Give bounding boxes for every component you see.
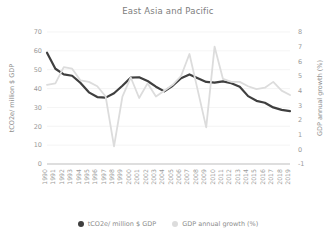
svg-text:1990: 1990 (41, 169, 48, 185)
svg-text:2004: 2004 (158, 169, 165, 185)
svg-text:2007: 2007 (183, 169, 190, 185)
svg-text:2002: 2002 (142, 169, 149, 185)
svg-text:2010: 2010 (209, 169, 216, 185)
svg-text:0: 0 (298, 146, 302, 154)
svg-text:1995: 1995 (83, 169, 90, 185)
svg-text:2: 2 (298, 116, 302, 124)
svg-text:3: 3 (298, 102, 302, 110)
svg-text:2009: 2009 (200, 169, 207, 185)
chart-card: East Asia and Pacific 010203040506070 -1… (0, 0, 336, 237)
svg-text:60: 60 (34, 47, 42, 55)
svg-text:2000: 2000 (125, 169, 132, 185)
x-axis-tick-labels: 1990199119921993199419951996199719981999… (41, 169, 291, 185)
svg-text:-1: -1 (298, 160, 304, 168)
svg-text:6: 6 (298, 58, 302, 66)
svg-text:1997: 1997 (100, 169, 107, 185)
y-axis-tick-labels: 010203040506070 (34, 28, 42, 168)
series-group (47, 47, 290, 147)
svg-text:1999: 1999 (116, 169, 123, 185)
svg-text:2006: 2006 (175, 169, 182, 185)
svg-text:1996: 1996 (91, 169, 98, 185)
legend-label-co2: tCO2e/ million $ GDP (88, 220, 156, 228)
svg-text:2011: 2011 (217, 169, 224, 185)
legend-swatch-gdp (172, 221, 178, 227)
svg-text:2005: 2005 (167, 169, 174, 185)
chart-legend: tCO2e/ million $ GDP GDP annual growth (… (0, 220, 336, 228)
secondary-y-axis-tick-labels: -1012345678 (298, 28, 304, 168)
svg-text:2018: 2018 (276, 169, 283, 185)
svg-text:2003: 2003 (150, 169, 157, 185)
svg-text:2016: 2016 (259, 169, 266, 185)
svg-text:1993: 1993 (66, 169, 73, 185)
svg-text:1998: 1998 (108, 169, 115, 185)
svg-text:50: 50 (34, 66, 42, 74)
svg-text:2014: 2014 (242, 169, 249, 185)
svg-text:7: 7 (298, 43, 302, 51)
svg-text:1994: 1994 (75, 169, 82, 185)
svg-text:2015: 2015 (250, 169, 257, 185)
svg-text:40: 40 (34, 85, 42, 93)
svg-text:1992: 1992 (58, 169, 65, 185)
legend-item-gdp[interactable]: GDP annual growth (%) (172, 220, 258, 228)
svg-text:2008: 2008 (192, 169, 199, 185)
secondary-y-axis-label: GDP annual growth (%) (316, 60, 324, 136)
svg-text:2019: 2019 (284, 169, 291, 185)
svg-text:70: 70 (34, 28, 42, 36)
legend-label-gdp: GDP annual growth (%) (182, 220, 258, 228)
chart-plot-area: 010203040506070 -1012345678 199019911992… (0, 0, 336, 237)
legend-swatch-co2 (78, 221, 84, 227)
svg-text:20: 20 (34, 123, 42, 131)
svg-text:1: 1 (298, 131, 302, 139)
svg-text:30: 30 (34, 104, 42, 112)
svg-text:2017: 2017 (267, 169, 274, 185)
legend-item-co2[interactable]: tCO2e/ million $ GDP (78, 220, 156, 228)
svg-text:8: 8 (298, 28, 302, 36)
svg-text:1991: 1991 (49, 169, 56, 185)
svg-text:4: 4 (298, 87, 302, 95)
svg-text:2012: 2012 (225, 169, 232, 185)
svg-text:2001: 2001 (133, 169, 140, 185)
y-axis-label: tCO2e/ million $ GDP (8, 64, 16, 133)
svg-text:10: 10 (34, 141, 42, 149)
svg-text:2013: 2013 (234, 169, 241, 185)
svg-text:5: 5 (298, 72, 302, 80)
svg-text:0: 0 (38, 160, 42, 168)
